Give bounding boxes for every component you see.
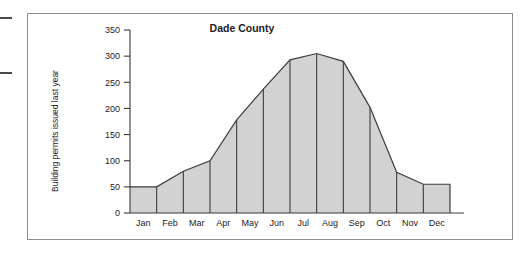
area-series [130,54,450,213]
margin-rule-mid [0,72,12,74]
chart-page: Dade County Building permits issued last… [0,0,529,255]
x-tick-label: Dec [429,218,446,228]
x-tick-label: Feb [162,218,178,228]
y-tick-label: 300 [105,51,120,61]
y-tick-label: 250 [105,78,120,88]
x-tick-label: Jan [136,218,151,228]
x-tick-label: Jul [298,218,310,228]
y-tick-label: 0 [115,208,120,218]
y-tick-label: 150 [105,130,120,140]
y-tick-label: 100 [105,156,120,166]
y-tick-label: 200 [105,104,120,114]
x-tick-label: Oct [376,218,391,228]
margin-rule-top [0,17,12,19]
x-tick-label: Jun [269,218,284,228]
y-axis-title-group: Building permits issued last year [50,70,60,192]
chart-title: Dade County [210,22,275,34]
y-tick-label: 350 [105,25,120,35]
y-tick-label: 50 [110,182,120,192]
x-tick-label: Nov [402,218,419,228]
x-tick-label: May [241,218,259,228]
x-axis-tick-labels: JanFebMarAprMayJunJulAugSepOctNovDec [136,218,445,228]
x-tick-label: Apr [216,218,230,228]
building-permits-area-chart: Dade County Building permits issued last… [27,13,513,240]
chart-title-group: Dade County [210,22,275,34]
x-tick-label: Sep [349,218,365,228]
x-tick-label: Aug [322,218,338,228]
x-tick-label: Mar [189,218,205,228]
y-axis-title: Building permits issued last year [50,70,60,192]
y-axis-ticks: 050100150200250300350 [105,25,130,218]
